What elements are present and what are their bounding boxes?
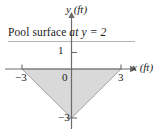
- origin-label: 0: [62, 72, 68, 83]
- y-tick-label-1: 1: [58, 45, 64, 56]
- x-tick-label-3: 3: [118, 72, 124, 83]
- y-axis-label: y (ft): [66, 4, 87, 15]
- x-tick-label-neg3: −3: [15, 72, 27, 83]
- x-axis-label: x (ft): [132, 62, 153, 73]
- pool-surface-text: Pool surface: [8, 26, 66, 38]
- pool-surface-equation: at y = 2: [69, 26, 106, 38]
- pool-surface-annotation: Pool surface at y = 2: [8, 27, 106, 39]
- y-tick-label-neg3: −3: [58, 112, 70, 123]
- pool-surface-triangle-figure: Pool surface at y = 2 y (ft) x (ft) −3 3…: [0, 0, 161, 134]
